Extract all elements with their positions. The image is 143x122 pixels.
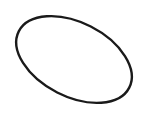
diagram-canvas [0, 0, 143, 122]
